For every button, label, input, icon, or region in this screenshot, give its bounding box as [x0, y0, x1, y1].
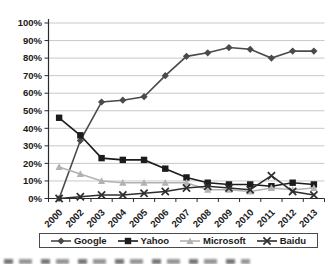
microsoft-triangle-marker-icon [180, 236, 200, 246]
x-tick-label: 2009 [212, 207, 235, 230]
x-tick-label: 2000 [42, 207, 65, 230]
x-tick-label: 2012 [275, 207, 298, 230]
y-tick-label: 20% [23, 158, 43, 169]
square-marker-icon [56, 115, 62, 121]
diamond-marker-icon [247, 46, 254, 53]
diamond-marker-icon [204, 49, 211, 56]
x-tick-label: 2004 [105, 206, 128, 229]
diamond-marker-icon [119, 97, 126, 104]
legend-item-microsoft: Microsoft [180, 236, 246, 246]
y-tick-label: 30% [23, 140, 43, 151]
legend-label-baidu: Baidu [280, 236, 306, 246]
x-tick-label: 2010 [233, 207, 256, 230]
legend-label-microsoft: Microsoft [203, 236, 246, 246]
cropped-caption-remnant [4, 259, 250, 264]
y-tick-label: 70% [23, 70, 43, 81]
square-marker-icon [124, 237, 130, 243]
y-tick-label: 100% [18, 17, 43, 28]
x-tick-label: 2003 [84, 207, 107, 230]
x-tick-label: 2006 [148, 207, 171, 230]
diamond-marker-icon [225, 44, 232, 51]
x-tick-label: 2008 [190, 207, 213, 230]
diamond-marker-icon [289, 47, 296, 54]
chart-svg: 0%10%20%30%40%50%60%70%80%90%100%2000200… [0, 0, 336, 232]
legend-label-google: Google [74, 236, 107, 246]
legend-label-yahoo: Yahoo [141, 236, 170, 246]
diamond-marker-icon [57, 237, 64, 244]
x-marker-icon [268, 172, 275, 179]
square-marker-icon [141, 157, 147, 163]
x-tick-label: 2013 [297, 207, 320, 230]
google-diamond-marker-icon [51, 236, 71, 246]
triangle-marker-icon [56, 163, 63, 170]
x-tick-label: 2005 [127, 206, 150, 229]
y-tick-label: 60% [23, 87, 43, 98]
square-marker-icon [120, 157, 126, 163]
diamond-marker-icon [98, 98, 105, 105]
chart-legend: Google Yahoo Microsoft Baidu [39, 233, 318, 248]
diamond-marker-icon [268, 55, 275, 62]
x-tick-label: 2002 [63, 207, 86, 230]
baidu-x-marker-icon [257, 236, 277, 246]
square-marker-icon [162, 165, 168, 171]
y-tick-label: 40% [23, 123, 43, 134]
diamond-marker-icon [310, 47, 317, 54]
square-marker-icon [77, 132, 83, 138]
square-marker-icon [98, 155, 104, 161]
x-tick-label: 2007 [169, 207, 192, 230]
x-tick-label: 2011 [254, 206, 277, 229]
y-tick-label: 90% [23, 35, 43, 46]
y-tick-label: 10% [23, 175, 43, 186]
legend-item-google: Google [51, 236, 107, 246]
y-tick-label: 80% [23, 52, 43, 63]
yahoo-square-marker-icon [118, 236, 138, 246]
legend-item-yahoo: Yahoo [118, 236, 170, 246]
y-tick-label: 0% [28, 193, 42, 204]
y-tick-label: 50% [23, 105, 43, 116]
square-marker-icon [289, 180, 295, 186]
legend-item-baidu: Baidu [257, 236, 306, 246]
chart-figure: 0%10%20%30%40%50%60%70%80%90%100%2000200… [0, 0, 336, 264]
